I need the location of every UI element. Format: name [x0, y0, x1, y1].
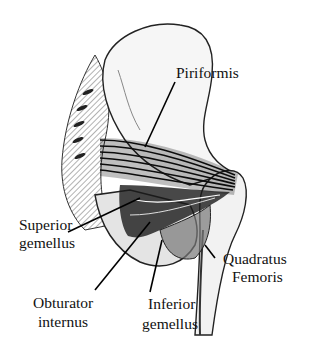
label-inferior-gemellus-line2: gemellus	[142, 315, 198, 333]
label-quadratus-femoris-line1: Quadratus	[223, 250, 287, 268]
label-inferior-gemellus-line1: Inferior	[148, 295, 195, 313]
label-piriformis: Piriformis	[176, 64, 239, 82]
label-superior-gemellus-line2: gemellus	[19, 234, 75, 252]
anatomy-figure: Piriformis Superior gemellus Quadratus F…	[0, 0, 315, 356]
label-superior-gemellus-line1: Superior	[19, 216, 72, 234]
label-obturator-internus-line2: internus	[38, 313, 88, 331]
label-obturator-internus-line1: Obturator	[33, 294, 93, 312]
label-quadratus-femoris-line2: Femoris	[232, 268, 283, 286]
